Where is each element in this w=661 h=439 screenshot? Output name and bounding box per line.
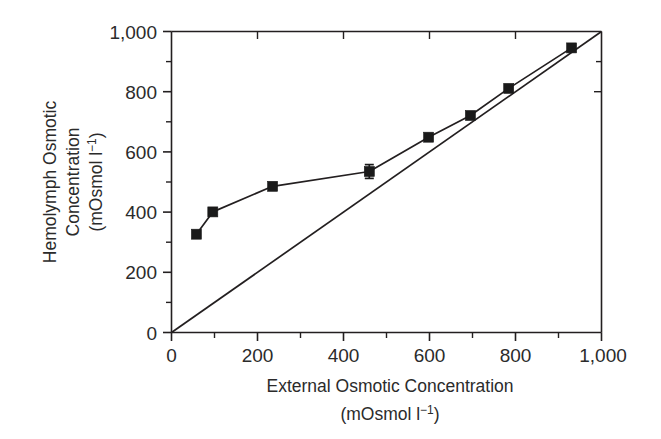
- y-tick-label-0: 0: [146, 323, 157, 344]
- x-axis-title-unit-prefix: (mOsmol l: [340, 404, 420, 424]
- y-axis-minor-ticks: [166, 62, 172, 303]
- data-point-3[interactable]: [268, 181, 278, 191]
- figure-panel: 1,000 800 600 400 200 0 0 200 400 600 80…: [0, 0, 661, 439]
- y-tick-label-1000: 1,000: [109, 22, 157, 43]
- y-tick-labels: 1,000 800 600 400 200 0: [109, 22, 157, 344]
- series-line-hemolymph: [196, 48, 571, 234]
- osmoregulation-chart: 1,000 800 600 400 200 0 0 200 400 600 80…: [0, 0, 661, 439]
- x-axis-title-line1: External Osmotic Concentration: [266, 376, 513, 396]
- x-tick-label-400: 400: [328, 345, 360, 366]
- top-axis-ticks: [258, 32, 516, 40]
- y-axis-title-unit-suffix: ): [86, 132, 106, 138]
- x-tick-label-200: 200: [242, 345, 274, 366]
- data-point-2[interactable]: [208, 207, 218, 217]
- data-markers: [191, 43, 576, 239]
- isosmotic-line: [172, 32, 602, 333]
- data-point-1[interactable]: [191, 229, 201, 239]
- data-point-6[interactable]: [465, 111, 475, 121]
- y-axis-title-line2: Concentration: [63, 128, 83, 237]
- y-tick-label-600: 600: [125, 142, 157, 163]
- x-tick-label-600: 600: [414, 345, 446, 366]
- data-point-8[interactable]: [567, 43, 577, 53]
- y-tick-label-200: 200: [125, 262, 157, 283]
- x-tick-label-0: 0: [166, 345, 177, 366]
- data-point-4[interactable]: [364, 167, 374, 177]
- data-point-5[interactable]: [424, 132, 434, 142]
- y-axis-title-line1: Hemolymph Osmotic: [40, 101, 60, 264]
- x-axis-title-unit-suffix: ): [434, 404, 440, 424]
- y-axis-title-line3: (mOsmol l−1): [85, 132, 106, 231]
- y-tick-label-400: 400: [125, 202, 157, 223]
- y-axis-title-unit-prefix: (mOsmol l: [86, 152, 106, 232]
- x-tick-labels: 0 200 400 600 800 1,000: [166, 345, 627, 366]
- x-tick-label-800: 800: [500, 345, 532, 366]
- y-axis-title-unit-sup: −1: [85, 138, 99, 152]
- x-axis-title-unit-sup: −1: [420, 403, 434, 417]
- right-axis-ticks: [594, 62, 602, 92]
- data-point-7[interactable]: [504, 83, 514, 93]
- x-axis-minor-ticks: [215, 333, 559, 339]
- x-axis-title: External Osmotic Concentration (mOsmol l…: [266, 376, 513, 424]
- x-tick-label-1000: 1,000: [579, 345, 627, 366]
- y-tick-label-800: 800: [125, 82, 157, 103]
- x-axis-title-line2: (mOsmol l−1): [340, 403, 439, 424]
- y-axis-title: Hemolymph Osmotic Concentration (mOsmol …: [40, 101, 106, 264]
